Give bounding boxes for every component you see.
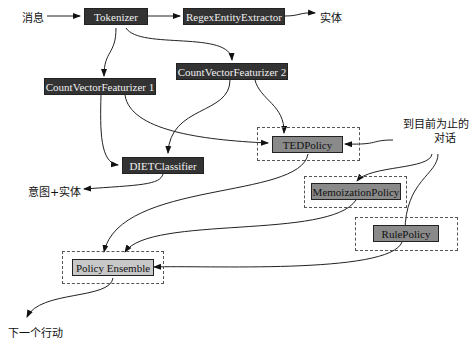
node-memoization-policy: MemoizationPolicy — [311, 183, 401, 200]
label-message: 消息 — [22, 9, 44, 25]
node-policy-ensemble: Policy Ensemble — [72, 259, 154, 276]
label-next-action: 下一个行动 — [8, 324, 63, 340]
label-intent-entity: 意图+实体 — [28, 183, 81, 199]
node-diet-classifier: DIETClassifier — [122, 157, 204, 174]
node-regex-entity-extractor: RegexEntityExtractor — [183, 8, 285, 25]
node-count-vector-featurizer-2: CountVectorFeaturizer 2 — [176, 63, 288, 80]
node-rule-policy: RulePolicy — [373, 225, 439, 242]
node-count-vector-featurizer-1: CountVectorFeaturizer 1 — [44, 78, 156, 95]
edges — [0, 0, 473, 348]
node-ted-policy: TEDPolicy — [272, 136, 343, 153]
label-conversation: 到目前为止的 对话 — [403, 118, 469, 146]
label-entity: 实体 — [320, 9, 342, 25]
node-tokenizer: Tokenizer — [84, 8, 148, 25]
